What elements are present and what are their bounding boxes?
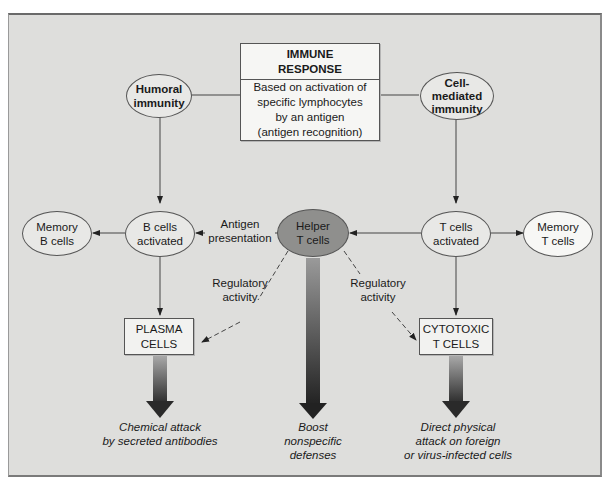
direct-line3: or virus-infected cells <box>396 448 520 462</box>
title-desc-2: specific lymphocytes <box>253 95 366 110</box>
helper-line2: T cells <box>296 233 329 247</box>
humoral-line2: immunity <box>133 96 184 110</box>
thick-arrow-cytotoxic-head <box>442 401 470 418</box>
title-heading-1: IMMUNE <box>241 47 379 62</box>
node-b-cells-activated: B cells activated <box>125 211 195 257</box>
dash-reg-right-b <box>392 312 416 340</box>
chemical-line1: Chemical attack <box>100 420 220 434</box>
node-plasma-cells: PLASMA CELLS <box>124 318 194 355</box>
boost-line3: defenses <box>268 448 358 462</box>
node-cytotoxic-t-cells: CYTOTOXIC T CELLS <box>419 318 493 355</box>
node-humoral-immunity: Humoral immunity <box>126 74 192 118</box>
chemical-line2: by secreted antibodies <box>100 434 220 448</box>
antigen-line1: Antigen <box>205 217 275 231</box>
memoryt-line2: T cells <box>541 234 574 248</box>
cellmed-line1: Cell- <box>445 77 470 90</box>
boost-line2: nonspecific <box>268 434 358 448</box>
node-cell-mediated-immunity: Cell- mediated immunity <box>420 72 494 120</box>
title-desc-1: Based on activation of <box>253 80 366 95</box>
cytotoxic-line2: T CELLS <box>433 337 479 352</box>
direct-line2: attack on foreign <box>396 434 520 448</box>
memoryt-line1: Memory <box>537 220 579 234</box>
memoryb-line2: B cells <box>40 234 74 248</box>
cytotoxic-line1: CYTOTOXIC <box>423 322 490 337</box>
regleft-line1: Regulatory <box>208 276 272 290</box>
label-antigen-presentation: Antigen presentation <box>205 217 275 245</box>
tact-line2: activated <box>433 234 479 248</box>
thick-arrow-helper-head <box>299 403 327 419</box>
node-t-cells-activated: T cells activated <box>421 211 491 257</box>
node-memory-t-cells: Memory T cells <box>523 211 593 257</box>
dash-reg-left-b <box>202 322 240 342</box>
plasma-line2: CELLS <box>141 337 177 352</box>
title-desc-3: by an antigen <box>253 110 366 125</box>
cellmed-line2: mediated <box>432 90 483 103</box>
node-helper-t-cells: Helper T cells <box>277 209 349 257</box>
outcome-chemical-attack: Chemical attack by secreted antibodies <box>100 420 220 448</box>
node-memory-b-cells: Memory B cells <box>22 211 92 256</box>
direct-line1: Direct physical <box>396 420 520 434</box>
regright-line1: Regulatory <box>346 276 410 290</box>
bact-line1: B cells <box>143 220 177 234</box>
dash-reg-right-a <box>344 251 360 274</box>
thick-arrow-plasma-shaft <box>153 356 167 404</box>
plasma-line1: PLASMA <box>136 322 183 337</box>
memoryb-line1: Memory <box>36 220 78 234</box>
thick-arrow-cytotoxic-shaft <box>449 356 463 404</box>
tact-line1: T cells <box>439 220 472 234</box>
label-regulatory-right: Regulatory activity <box>346 276 410 304</box>
thick-arrow-helper-shaft <box>306 258 320 405</box>
regright-line2: activity <box>346 290 410 304</box>
boost-line1: Boost <box>268 420 358 434</box>
regleft-line2: activity <box>208 290 272 304</box>
cellmed-line3: immunity <box>431 103 482 116</box>
outcome-boost-defenses: Boost nonspecific defenses <box>268 420 358 462</box>
helper-line1: Helper <box>296 219 330 233</box>
thick-arrow-plasma-head <box>146 401 174 418</box>
antigen-line2: presentation <box>205 231 275 245</box>
immune-response-box: IMMUNE RESPONSE Based on activation of s… <box>240 43 380 141</box>
label-regulatory-left: Regulatory activity <box>208 276 272 304</box>
bact-line2: activated <box>137 234 183 248</box>
outcome-direct-attack: Direct physical attack on foreign or vir… <box>396 420 520 462</box>
title-desc-4: (antigen recognition) <box>253 125 366 140</box>
title-heading-2: RESPONSE <box>241 62 379 77</box>
humoral-line1: Humoral <box>136 82 183 96</box>
